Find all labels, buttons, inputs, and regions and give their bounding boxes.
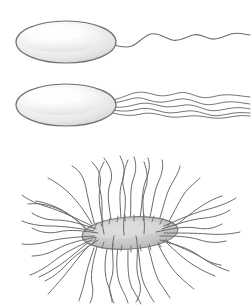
flagellum-4 (113, 108, 250, 115)
panel-lophotrichous (16, 84, 250, 126)
flagellum-d1 (90, 243, 98, 303)
flagellum-d6 (148, 246, 170, 298)
lophotrichous-flagella-group (113, 92, 250, 118)
flagellum-f18 (164, 198, 236, 226)
flagellum-d5 (138, 247, 154, 302)
panel-monotrichous (16, 21, 250, 63)
bacteria-flagella-figure: Bacterial flagellar arrangements (0, 0, 251, 305)
flagellum-u5 (130, 157, 136, 223)
flagellum-f9 (160, 240, 221, 265)
flagellum-d8 (166, 242, 215, 276)
cell-body-monotrichous-gloss (24, 25, 84, 41)
flagellum-3 (113, 103, 250, 111)
monotrichous-flagellum-group (114, 33, 250, 47)
flagellum-d3 (117, 246, 128, 303)
figure-canvas (0, 0, 251, 305)
panel-peritrichous (22, 156, 240, 304)
flagellum-d10 (48, 246, 88, 294)
flagellum-u3 (104, 158, 112, 226)
flagellum-f16 (22, 195, 92, 226)
flagellum-u6 (139, 158, 149, 223)
flagellum-2 (113, 98, 250, 105)
flagellum-d9 (39, 241, 90, 277)
cell-body-lophotrichous-gloss (24, 88, 84, 104)
flagellum-d2 (105, 245, 112, 302)
flagellum-u1 (72, 166, 96, 230)
flagellum-1 (114, 33, 250, 47)
flagellum-u8 (157, 166, 180, 226)
